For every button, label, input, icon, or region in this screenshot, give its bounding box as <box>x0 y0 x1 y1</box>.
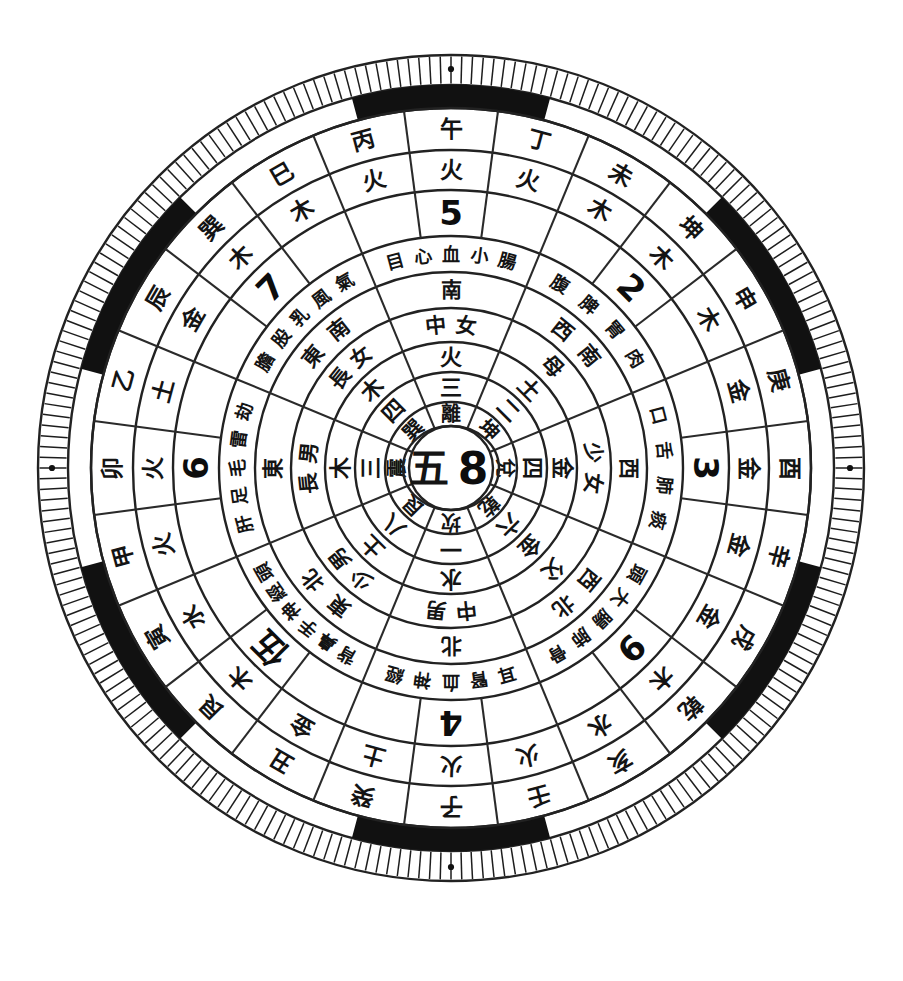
ring-glyph: 舌 <box>653 440 675 460</box>
ring-glyph: 3 <box>686 456 726 480</box>
ring-glyph: 午 <box>440 116 463 142</box>
ring-glyph: 木 <box>328 456 353 480</box>
ring-glyph: 心 <box>412 244 433 267</box>
ring-glyph: 火 <box>440 345 462 370</box>
ring-glyph: 火 <box>140 457 166 480</box>
ring-glyph: 女 <box>454 313 477 339</box>
ring-glyph: 三 <box>440 375 462 400</box>
ring-glyph: 火 <box>440 157 463 183</box>
ring-glyph: 血 <box>442 244 460 265</box>
ring-glyph: 金 <box>550 456 575 480</box>
ring-glyph: 四 <box>520 457 545 479</box>
ring-glyph: 東 <box>261 458 285 479</box>
ring-glyph: 4 <box>439 703 463 743</box>
ring-glyph: 6 <box>176 456 216 480</box>
ring-glyph: 足 <box>227 486 250 507</box>
ring-glyph: 南 <box>441 278 462 302</box>
center-chinese-numeral: 五 <box>409 445 449 491</box>
ring-glyph: 毛 <box>227 459 248 477</box>
ring-glyph: 中 <box>424 313 447 339</box>
ring-glyph: 震 <box>385 457 409 478</box>
ring-glyph: 雷 <box>227 429 250 450</box>
ring-glyph: 一 <box>440 537 462 562</box>
ring-glyph: 兌 <box>493 458 517 478</box>
ring-glyph: 三 <box>358 457 383 479</box>
ring-glyph: 離 <box>441 402 461 426</box>
ring-glyph: 少 <box>580 440 606 464</box>
ring-glyph: 小 <box>469 244 490 267</box>
ring-glyph: 水 <box>439 567 462 592</box>
ring-glyph: 火 <box>440 753 463 779</box>
center-arabic-numeral: 8 <box>458 443 489 494</box>
ring-glyph: 金 <box>736 456 762 481</box>
ring-glyph: 5 <box>439 193 463 233</box>
ring-glyph: 坎 <box>440 510 461 534</box>
ring-glyph: 肺 <box>653 476 675 496</box>
ring-glyph: 長 <box>296 470 322 494</box>
ring-glyph: 血 <box>442 672 460 693</box>
ring-glyph: 酉 <box>777 457 803 480</box>
ring-glyph: 西 <box>617 458 641 479</box>
ring-glyph: 腎 <box>469 669 490 692</box>
compass-figure-stage: 午丁未坤申庚酉辛戌乾亥壬子癸丑艮寅甲卯乙辰巽巳丙火火木木木金金金金木水火火土金木… <box>0 0 903 981</box>
ring-glyph: 男 <box>424 597 447 623</box>
ring-glyph: 子 <box>440 794 463 820</box>
ring-glyph: 卯 <box>99 457 125 480</box>
ring-glyph: 北 <box>441 634 462 658</box>
ring-glyph: 女 <box>580 471 606 494</box>
luopan-compass-diagram: 午丁未坤申庚酉辛戌乾亥壬子癸丑艮寅甲卯乙辰巽巳丙火火木木木金金金金木水火火土金木… <box>0 0 903 981</box>
ring-glyph: 男 <box>296 441 322 464</box>
ring-glyph: 中 <box>454 597 477 623</box>
ring-glyph: 神 <box>412 669 433 692</box>
